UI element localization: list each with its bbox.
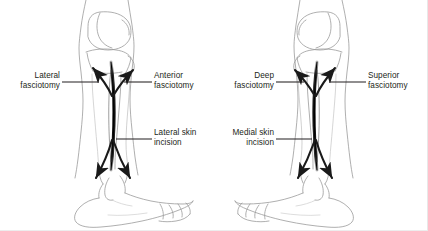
arrow-down-right: [113, 140, 130, 178]
label-medial-skin-incision: Medial skin incision: [216, 128, 274, 149]
arrow-down-left: [298, 140, 315, 178]
label-lateral-fasciotomy: Lateral fasciotomy: [4, 71, 60, 92]
label-superior-fasciotomy: Superior fasciotomy: [368, 71, 428, 92]
figure-canvas: Lateral fasciotomy Anterior fasciotomy L…: [0, 0, 428, 231]
leg-outline: [75, 0, 193, 227]
lateral-leg-illustration: [0, 0, 214, 231]
medial-leg-illustration: [214, 0, 428, 231]
leg-outline: [235, 0, 353, 227]
leader-lines: [276, 82, 366, 139]
label-anterior-fasciotomy: Anterior fasciotomy: [154, 71, 212, 92]
panel-medial-approach: Deep fasciotomy Superior fasciotomy Medi…: [214, 0, 428, 231]
panel-lateral-approach: Lateral fasciotomy Anterior fasciotomy L…: [0, 0, 214, 231]
lateral-skin-incision-mark: [109, 62, 115, 170]
medial-skin-incision-mark: [313, 62, 319, 170]
label-lateral-skin-incision: Lateral skin incision: [154, 128, 212, 149]
label-deep-fasciotomy: Deep fasciotomy: [216, 71, 274, 92]
leader-lines: [62, 82, 152, 139]
